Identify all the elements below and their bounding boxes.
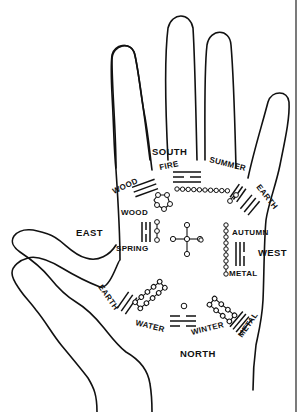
label-east: EAST [76, 227, 103, 238]
node-square-topleft [154, 193, 173, 212]
trigram-west [236, 242, 244, 266]
trigram-fire [173, 172, 201, 182]
node-center-cross [170, 222, 202, 256]
label-water: WATER [135, 318, 166, 334]
label-autumn: AUTUMN [232, 228, 268, 237]
label-earth-top: EARTH [254, 183, 279, 211]
node-single-west [199, 238, 203, 242]
label-metal-right: METAL [229, 269, 257, 278]
label-spring: SPRING [116, 244, 148, 253]
node-column-east [155, 220, 160, 243]
label-wood-left: WOOD [121, 208, 148, 217]
label-winter: WINTER [190, 320, 225, 337]
node-ladder-bottomleft [132, 278, 168, 311]
pinky-finger-outline [248, 93, 289, 390]
node-chain-top [175, 187, 230, 193]
label-summer: SUMMER [209, 155, 247, 173]
hand-diagram: SOUTH EAST WEST NORTH WOOD FIRE SUMMER E… [0, 0, 298, 412]
trigram-earth-top [240, 195, 259, 215]
trigram-east [142, 222, 150, 242]
middle-finger-outline [166, 16, 197, 160]
label-fire: FIRE [159, 159, 180, 172]
node-chain-west [224, 223, 228, 276]
label-north: NORTH [180, 348, 216, 359]
node-single-north [181, 303, 187, 309]
trigram-water [170, 316, 196, 326]
ring-finger-outline [205, 32, 236, 168]
index-finger-outline [112, 46, 150, 168]
label-south: SOUTH [152, 146, 187, 157]
label-west: WEST [258, 247, 287, 258]
